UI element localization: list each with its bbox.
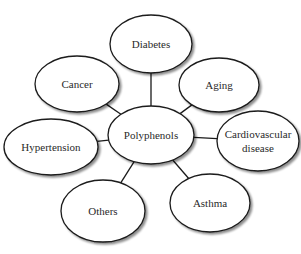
- node-asthma: Asthma: [170, 174, 250, 232]
- node-cardiovascular-disease-ellipse: [217, 111, 299, 171]
- connector-cancer: [106, 104, 121, 114]
- connector-aging: [180, 105, 192, 114]
- node-hypertension-label: Hypertension: [21, 141, 81, 153]
- node-cardiovascular-disease-label: disease: [242, 142, 274, 154]
- node-cancer-label: Cancer: [61, 78, 92, 90]
- connector-cardiovascular-disease: [194, 137, 217, 138]
- node-diabetes-label: Diabetes: [132, 38, 170, 50]
- node-cardiovascular-disease: Cardiovasculardisease: [217, 111, 299, 171]
- polyphenols-diagram: PolyphenolsDiabetesAgingCardiovasculardi…: [0, 0, 301, 254]
- connector-asthma: [173, 160, 189, 178]
- node-polyphenols-label: Polyphenols: [124, 129, 178, 141]
- node-aging-label: Aging: [205, 79, 233, 91]
- node-others-label: Others: [88, 205, 117, 217]
- node-cardiovascular-disease-label: Cardiovascular: [225, 128, 292, 140]
- node-others: Others: [61, 180, 145, 242]
- node-diabetes: Diabetes: [110, 15, 192, 73]
- nodes: PolyphenolsDiabetesAgingCardiovasculardi…: [4, 15, 299, 242]
- node-aging: Aging: [179, 58, 259, 112]
- node-hypertension: Hypertension: [4, 119, 98, 175]
- connector-others: [121, 162, 134, 183]
- connector-hypertension: [97, 140, 109, 141]
- node-asthma-label: Asthma: [193, 197, 227, 209]
- node-polyphenols: Polyphenols: [108, 106, 194, 164]
- node-cancer: Cancer: [35, 56, 119, 112]
